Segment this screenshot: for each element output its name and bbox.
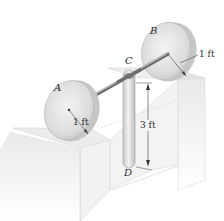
label-point-d: D xyxy=(124,168,132,178)
label-disk-a: A xyxy=(54,83,61,93)
mechanics-diagram xyxy=(0,0,224,221)
slot-trough xyxy=(100,80,178,190)
label-radius-b: 1 ft xyxy=(199,50,215,59)
bar-cd xyxy=(123,70,135,168)
left-support-block xyxy=(0,128,110,221)
label-radius-a: 1 ft xyxy=(73,118,89,127)
label-point-c: C xyxy=(125,56,133,66)
label-disk-b: B xyxy=(150,26,157,36)
label-bar-length: 3 ft xyxy=(140,121,156,130)
